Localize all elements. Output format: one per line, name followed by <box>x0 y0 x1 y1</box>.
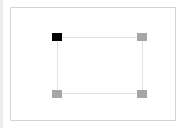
resize-handle-bottom-left[interactable] <box>52 90 62 98</box>
left-gutter <box>0 0 3 128</box>
resize-handle-bottom-right[interactable] <box>137 90 147 98</box>
rectangle-shape[interactable] <box>57 37 143 94</box>
resize-handle-top-right[interactable] <box>137 33 147 41</box>
resize-handle-top-left[interactable] <box>52 33 62 41</box>
